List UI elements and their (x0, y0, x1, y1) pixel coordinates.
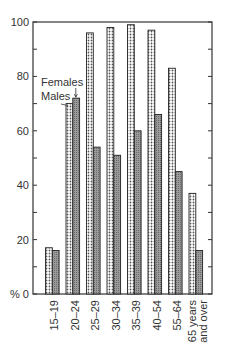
bar-males (134, 131, 141, 294)
bar-females (66, 104, 73, 294)
bar-males (196, 250, 203, 294)
x-category-label: 55–64 (171, 300, 183, 331)
x-category-label: 40–54 (151, 300, 163, 331)
x-category-label: 35–39 (130, 300, 142, 331)
chart-axes (33, 22, 212, 294)
y-axis-label: % 0 (10, 288, 29, 300)
legend-females: Females (41, 76, 84, 88)
bar-females (46, 248, 53, 294)
bar-males (52, 250, 59, 294)
bar-chart: 20406080100% 015–1920–2425–2930–3435–394… (0, 0, 225, 356)
bar-males (93, 147, 100, 294)
legend-males: Males (41, 90, 71, 102)
bar-males (155, 114, 162, 294)
bar-females (128, 25, 135, 294)
x-category-label: 20–24 (69, 300, 81, 331)
bar-females (107, 27, 114, 294)
y-tick-label: 20 (17, 234, 29, 246)
x-category-label: 15–19 (48, 300, 60, 331)
bar-females (169, 68, 176, 294)
x-category-label: and over (197, 300, 209, 343)
bar-females (148, 30, 155, 294)
bar-males (175, 172, 182, 294)
bar-females (189, 193, 196, 294)
x-category-label: 25–29 (89, 300, 101, 331)
y-tick-label: 100 (11, 16, 29, 28)
chart-bars (46, 25, 203, 294)
y-tick-label: 40 (17, 179, 29, 191)
bar-males (73, 98, 80, 294)
y-tick-label: 60 (17, 125, 29, 137)
x-category-label: 30–34 (110, 300, 122, 331)
y-tick-label: 80 (17, 70, 29, 82)
plot-frame (33, 22, 212, 294)
bar-males (114, 155, 121, 294)
bar-females (87, 33, 94, 294)
